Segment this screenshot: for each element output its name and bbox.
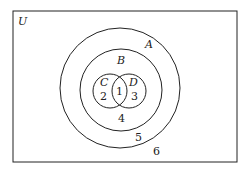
- region-3-label: 3: [131, 90, 138, 103]
- universe-rectangle: [13, 11, 237, 162]
- set-a-label: A: [144, 38, 153, 51]
- venn-diagram: U A B C D 1 2 3 4 5 6: [0, 0, 240, 170]
- region-5-label: 5: [135, 131, 142, 144]
- universe-label: U: [18, 15, 28, 28]
- region-4-label: 4: [118, 112, 125, 125]
- region-2-label: 2: [100, 90, 107, 103]
- set-d-label: D: [128, 76, 138, 89]
- set-c-label: C: [100, 76, 109, 89]
- region-1-label: 1: [116, 85, 123, 98]
- region-6-label: 6: [153, 145, 160, 158]
- set-b-label: B: [116, 54, 125, 67]
